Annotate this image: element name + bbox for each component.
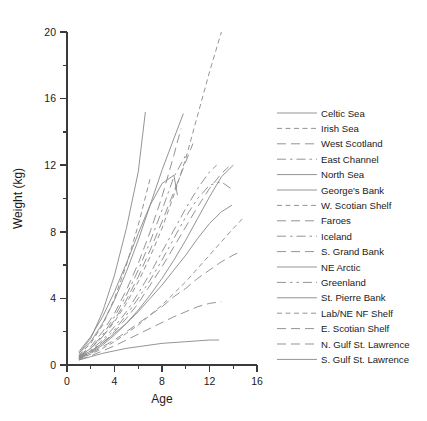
legend-item-label: Celtic Sea bbox=[321, 108, 365, 119]
chart-axes: 0481216200481216AgeWeight (kg) bbox=[11, 26, 263, 406]
x-tick-label: 0 bbox=[64, 375, 70, 387]
legend-item-label: Faroes bbox=[321, 215, 351, 226]
series-line bbox=[79, 144, 193, 357]
legend-item-label: St. Pierre Bank bbox=[321, 292, 386, 303]
legend-item-label: S. Gulf St. Lawrence bbox=[321, 354, 409, 365]
legend-item-label: E. Scotian Shelf bbox=[321, 323, 390, 334]
y-tick-label: 16 bbox=[44, 92, 56, 104]
y-tick-label: 4 bbox=[50, 292, 56, 304]
chart-legend: Celtic SeaIrish SeaWest ScotlandEast Cha… bbox=[277, 108, 410, 365]
y-tick-label: 12 bbox=[44, 159, 56, 171]
legend-item-label: North Sea bbox=[321, 169, 365, 180]
y-tick-label: 8 bbox=[50, 226, 56, 238]
series-line bbox=[79, 182, 231, 358]
legend-item-label: East Channel bbox=[321, 154, 379, 165]
series-line bbox=[79, 32, 222, 357]
legend-item-label: Iceland bbox=[321, 231, 352, 242]
series-line bbox=[79, 129, 181, 356]
legend-item-label: N. Gulf St. Lawrence bbox=[321, 339, 410, 350]
x-tick-label: 4 bbox=[112, 375, 118, 387]
legend-item-label: Irish Sea bbox=[321, 123, 360, 134]
series-line bbox=[79, 175, 178, 351]
legend-item-label: Lab/NE NF Shelf bbox=[321, 308, 393, 319]
legend-item-label: Greenland bbox=[321, 277, 366, 288]
legend-item-label: NE Arctic bbox=[321, 262, 361, 273]
series-line bbox=[79, 112, 146, 353]
y-tick-label: 20 bbox=[44, 26, 56, 38]
legend-item-label: West Scotland bbox=[321, 138, 383, 149]
series-line bbox=[79, 218, 243, 359]
series-line bbox=[79, 179, 150, 355]
y-axis-title: Weight (kg) bbox=[11, 168, 25, 229]
y-tick-label: 0 bbox=[50, 359, 56, 371]
chart-series bbox=[79, 32, 243, 360]
series-line bbox=[79, 302, 222, 360]
legend-item-label: S. Grand Bank bbox=[321, 246, 384, 257]
x-tick-label: 16 bbox=[251, 375, 263, 387]
line-chart: 0481216200481216AgeWeight (kg) Celtic Se… bbox=[0, 0, 427, 421]
chart-figure: 0481216200481216AgeWeight (kg) Celtic Se… bbox=[0, 0, 427, 421]
x-tick-label: 8 bbox=[159, 375, 165, 387]
series-line bbox=[79, 340, 219, 360]
x-tick-label: 12 bbox=[204, 375, 216, 387]
legend-item-label: W. Scotian Shelf bbox=[321, 200, 392, 211]
x-axis-title: Age bbox=[151, 392, 173, 406]
legend-item-label: George's Bank bbox=[321, 185, 384, 196]
